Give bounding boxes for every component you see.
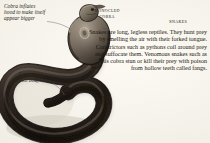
body-paragraph-text: Snakes are long, legless reptiles. They … <box>89 29 207 71</box>
encyclopedia-page: Cobra inflates hood to make itself appea… <box>0 0 210 143</box>
specimen-label-monocled-cobra: Monocled Cobra <box>90 7 124 19</box>
body-paragraph: Snakes are long, legless reptiles. They … <box>89 29 207 73</box>
text-layer: Cobra inflates hood to make itself appea… <box>0 0 210 143</box>
section-heading-snakes: Snakes <box>155 18 201 24</box>
annotation-body: Long, thin body <box>19 71 53 83</box>
annotation-hood: Cobra inflates hood to make itself appea… <box>4 3 58 22</box>
